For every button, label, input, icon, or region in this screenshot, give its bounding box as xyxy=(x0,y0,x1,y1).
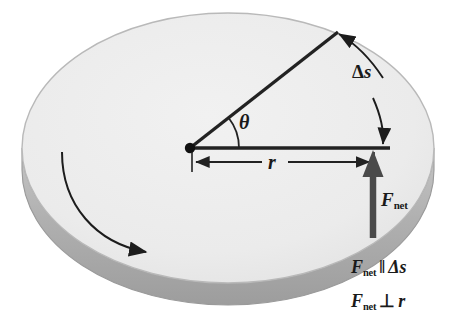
perpendicular-operator-icon: ⊥ xyxy=(376,291,398,311)
equation-perpendicular-subscript: net xyxy=(363,301,376,312)
arc-length-var: s xyxy=(364,61,371,82)
rotating-disk-diagram xyxy=(0,0,464,336)
force-subscript: net xyxy=(394,199,408,211)
equation-perpendicular-symbol: F xyxy=(351,291,363,311)
arc-length-label: Δs xyxy=(352,62,371,81)
equation-parallel-subscript: net xyxy=(363,267,376,278)
equation-parallel: Fnet‖Δs xyxy=(351,258,406,278)
force-symbol: F xyxy=(381,189,394,210)
equation-parallel-symbol: F xyxy=(351,257,363,277)
net-force-label: Fnet xyxy=(381,190,408,211)
parallel-operator-icon: ‖ xyxy=(376,257,388,277)
delta-glyph: Δ xyxy=(352,61,364,82)
equation-parallel-rhs: Δs xyxy=(388,257,406,277)
radius-label: r xyxy=(268,152,276,172)
equation-perpendicular: Fnet⊥r xyxy=(351,292,405,312)
center-pivot-dot xyxy=(185,143,195,153)
theta-label: θ xyxy=(239,112,249,132)
equation-perpendicular-rhs: r xyxy=(398,291,405,311)
